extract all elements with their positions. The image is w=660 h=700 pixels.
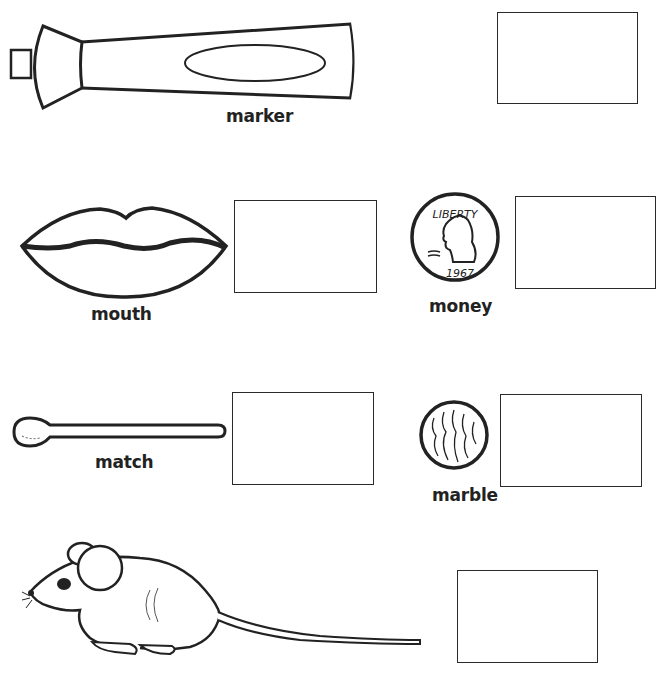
- label-mouth: mouth: [91, 304, 152, 324]
- coin-year-text: 1967: [446, 267, 474, 280]
- answer-box-match[interactable]: [232, 392, 374, 485]
- match-icon: [0, 410, 230, 450]
- mouse-icon: [0, 530, 430, 670]
- answer-box-money[interactable]: [515, 196, 656, 289]
- label-marker: marker: [226, 106, 293, 126]
- answer-box-marble[interactable]: [500, 394, 642, 487]
- answer-box-mouse[interactable]: [457, 570, 598, 663]
- marble-icon: [418, 400, 490, 472]
- coin-icon: LIBERTY 1967: [408, 190, 508, 290]
- answer-box-mouth[interactable]: [234, 200, 377, 293]
- answer-box-marker[interactable]: [497, 12, 638, 104]
- lips-icon: [0, 180, 240, 300]
- label-match: match: [95, 452, 154, 472]
- label-marble: marble: [432, 485, 498, 505]
- label-money: money: [429, 296, 492, 316]
- coin-liberty-text: LIBERTY: [433, 208, 479, 221]
- marker-icon: [0, 0, 340, 110]
